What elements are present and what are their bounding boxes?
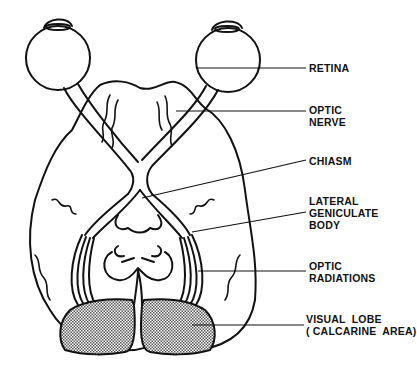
- right-optic-nerve-inner: [142, 86, 206, 160]
- label-chiasm: CHIASM: [309, 155, 352, 167]
- label-retina: RETINA: [309, 62, 349, 74]
- right-eyeball: [196, 28, 260, 92]
- label-optic-nerve: OPTIC NERVE: [309, 104, 346, 128]
- left-optic-nerve-inner: [78, 84, 138, 162]
- right-visual-lobe: [141, 299, 215, 354]
- label-optic-radiations: OPTIC RADIATIONS: [309, 260, 376, 284]
- label-lateral-geniculate-body: LATERAL GENICULATE BODY: [309, 195, 378, 231]
- left-visual-lobe: [60, 299, 135, 354]
- midbrain-upper: [116, 215, 162, 233]
- left-optic-nerve: [64, 88, 133, 194]
- label-visual-lobe: VISUAL LOBE ( CALCARINE AREA): [306, 313, 417, 337]
- left-eyeball: [26, 26, 90, 90]
- leader-chiasm: [142, 160, 306, 198]
